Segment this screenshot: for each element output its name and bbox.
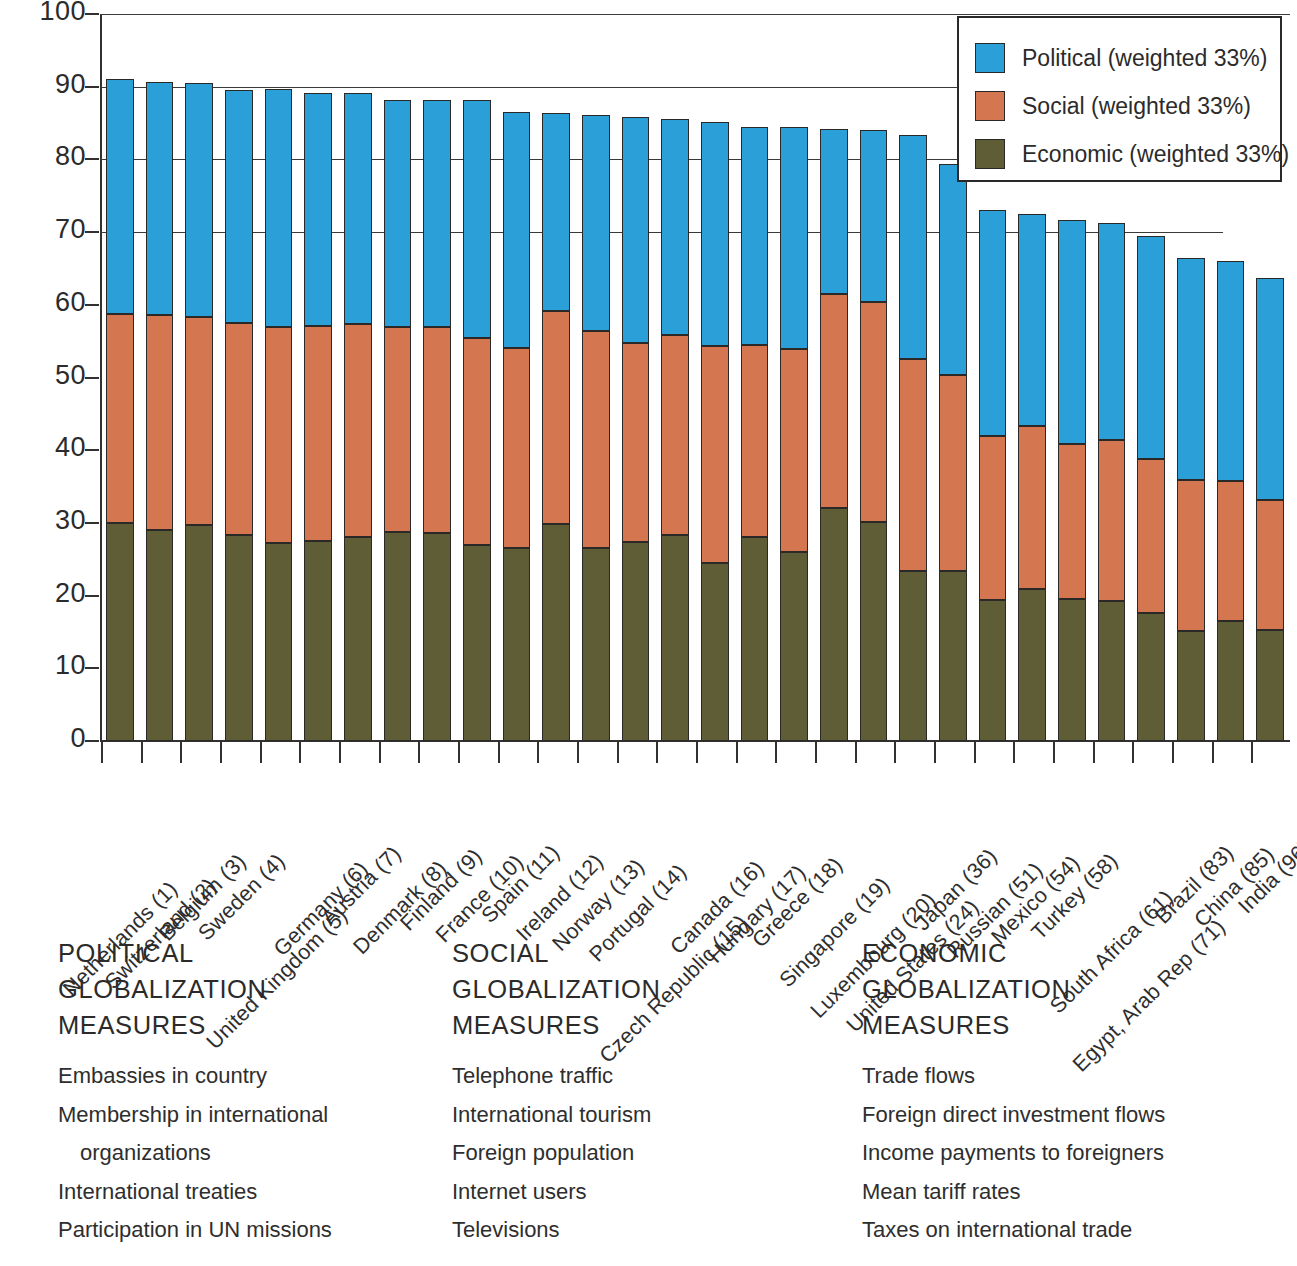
bar-segment-social — [463, 338, 491, 544]
y-tick-label: 90 — [0, 69, 86, 100]
x-tick-mark — [894, 741, 896, 763]
x-tick-mark — [379, 741, 381, 763]
bar-russian — [979, 210, 1007, 741]
y-tick-mark-70 — [85, 231, 99, 233]
measures-item: Foreign population — [452, 1134, 814, 1173]
bar-segment-economic — [939, 571, 967, 741]
x-tick-mark — [220, 741, 222, 763]
x-tick-mark — [458, 741, 460, 763]
legend-item-label: Social (weighted 33%) — [1022, 93, 1251, 120]
measures-item: Internet users — [452, 1173, 814, 1212]
x-tick-mark — [1093, 741, 1095, 763]
bar-sweden — [225, 90, 253, 741]
bar-segment-economic — [423, 533, 451, 741]
y-tick-label: 40 — [0, 432, 86, 463]
x-axis-label: Japan (36) — [911, 844, 1003, 936]
bar-segment-economic — [542, 524, 570, 741]
x-tick-mark — [974, 741, 976, 763]
y-tick-mark-40 — [85, 449, 99, 451]
x-tick-mark — [1013, 741, 1015, 763]
bar-segment-political — [384, 100, 412, 327]
y-tick-mark-0 — [85, 740, 99, 742]
y-tick-label: 80 — [0, 141, 86, 172]
bar-segment-political — [185, 83, 213, 317]
bar-segment-economic — [1058, 599, 1086, 741]
bar-segment-social — [304, 326, 332, 541]
bar-segment-economic — [1018, 589, 1046, 741]
bar-segment-political — [542, 113, 570, 311]
x-axis-label: Sweden (4) — [194, 849, 291, 946]
bar-singapore — [820, 129, 848, 741]
y-tick-mark-60 — [85, 304, 99, 306]
bar-segment-social — [661, 335, 689, 534]
bar-portugal — [622, 117, 650, 741]
x-tick-mark — [1251, 741, 1253, 763]
bar-segment-economic — [741, 537, 769, 741]
chart-legend: Political (weighted 33%)Social (weighted… — [957, 16, 1282, 182]
bar-china — [1217, 261, 1245, 741]
bar-segment-political — [622, 117, 650, 343]
bar-united-kingdom — [265, 89, 293, 741]
bar-switzerland — [146, 82, 174, 741]
x-tick-mark — [736, 741, 738, 763]
bar-segment-political — [661, 119, 689, 336]
x-tick-mark — [1172, 741, 1174, 763]
bar-segment-social — [225, 323, 253, 535]
bar-ireland — [542, 113, 570, 741]
bar-greece — [780, 127, 808, 741]
bar-segment-social — [1177, 480, 1205, 630]
bar-denmark — [384, 100, 412, 741]
x-tick-mark — [299, 741, 301, 763]
bar-finland — [423, 100, 451, 741]
x-axis-label: Brazil (83) — [1151, 841, 1240, 930]
bar-segment-economic — [1256, 630, 1284, 741]
bar-segment-economic — [106, 523, 134, 741]
y-tick-mark-80 — [85, 158, 99, 160]
y-tick-label: 50 — [0, 360, 86, 391]
bar-norway — [582, 115, 610, 741]
bar-segment-economic — [820, 508, 848, 741]
bar-netherlands — [106, 79, 134, 741]
bar-segment-political — [265, 89, 293, 327]
y-tick-mark-90 — [85, 86, 99, 88]
bar-segment-social — [899, 359, 927, 571]
x-axis-label: India (96) — [1233, 836, 1297, 919]
bar-segment-social — [185, 317, 213, 525]
x-tick-mark — [1053, 741, 1055, 763]
x-axis-label: Ireland (12) — [511, 849, 608, 946]
y-tick-label: 30 — [0, 505, 86, 536]
measures-column-title: ECONOMIC GLOBALIZATION MEASURES — [862, 935, 1297, 1043]
x-tick-mark — [1212, 741, 1214, 763]
x-tick-mark — [696, 741, 698, 763]
y-tick-mark-20 — [85, 595, 99, 597]
bar-south-africa — [1098, 223, 1126, 741]
bar-czech-republic — [661, 119, 689, 741]
x-tick-mark — [339, 741, 341, 763]
bar-segment-economic — [661, 535, 689, 741]
measures-column-title: POLITICAL GLOBALIZATION MEASURES — [58, 935, 404, 1043]
bar-segment-social — [820, 294, 848, 508]
x-tick-mark — [260, 741, 262, 763]
x-axis-label: Spain (11) — [477, 840, 565, 928]
y-tick-label: 60 — [0, 287, 86, 318]
y-tick-mark-10 — [85, 667, 99, 669]
measures-item: Taxes on international trade — [862, 1211, 1297, 1250]
measures-column-title: SOCIAL GLOBALIZATION MEASURES — [452, 935, 814, 1043]
x-tick-mark — [141, 741, 143, 763]
bar-segment-social — [701, 346, 729, 563]
bar-segment-economic — [701, 563, 729, 741]
bar-germany — [304, 93, 332, 741]
bar-segment-political — [304, 93, 332, 326]
bar-segment-economic — [1177, 631, 1205, 742]
bar-segment-economic — [503, 548, 531, 741]
bar-segment-political — [1098, 223, 1126, 440]
x-tick-mark — [617, 741, 619, 763]
bar-segment-political — [1018, 214, 1046, 426]
legend-color-swatch — [975, 139, 1005, 169]
bar-france — [463, 100, 491, 741]
bar-segment-economic — [622, 542, 650, 741]
x-axis-label: Belgium (3) — [154, 849, 251, 946]
bar-united-states — [899, 135, 927, 741]
bar-segment-social — [1018, 426, 1046, 589]
stacked-bar-chart: 0102030405060708090100 Netherlands (1)Sw… — [0, 0, 1297, 930]
